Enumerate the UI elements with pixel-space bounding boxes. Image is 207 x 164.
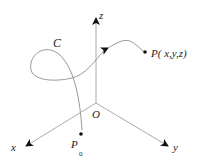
x-axis bbox=[26, 103, 96, 146]
x-axis-label: x bbox=[10, 141, 16, 153]
z-axis-label: z bbox=[98, 9, 104, 21]
y-axis bbox=[96, 103, 168, 146]
curve-label: C bbox=[53, 36, 62, 50]
point-p-dot bbox=[143, 50, 147, 54]
point-p-label: P( x,y,z) bbox=[150, 47, 187, 60]
origin-label: O bbox=[92, 108, 100, 120]
space-curve-diagram: z x y O C P( x,y,z) P 0 bbox=[0, 0, 207, 164]
curve-c-end bbox=[108, 40, 144, 52]
point-p0-label: P bbox=[70, 138, 78, 150]
point-p0-subscript: 0 bbox=[79, 150, 83, 158]
point-p0-dot bbox=[79, 132, 83, 136]
y-axis-label: y bbox=[172, 141, 178, 153]
